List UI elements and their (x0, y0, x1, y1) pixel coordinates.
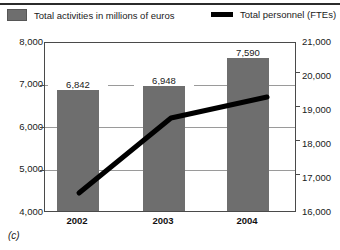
square-swatch-icon (7, 9, 27, 21)
chart-figure: Total activities in millions of euros To… (0, 0, 340, 250)
left-axis-tick-4000: 4,000 (3, 207, 43, 217)
top-divider-rule (0, 3, 340, 5)
x-axis-label-2003: 2003 (133, 215, 193, 226)
line-swatch-icon (211, 12, 233, 17)
right-axis-tick-17000: 17,000 (302, 173, 340, 183)
x-axis-label-2004: 2004 (217, 215, 277, 226)
right-axis-tick-16000: 16,000 (302, 207, 340, 217)
right-axis-tick-18000: 18,000 (302, 139, 340, 149)
legend-item-bars: Total activities in millions of euros (7, 9, 174, 21)
left-axis-tick-7000: 7,000 (3, 79, 43, 89)
plot-area: 6,842 6,948 7,590 (44, 42, 296, 212)
figure-caption: (c) (8, 230, 20, 241)
legend-item-line: Total personnel (FTEs) (211, 9, 336, 20)
right-axis-tick-19000: 19,000 (302, 105, 340, 115)
left-axis-tick-5000: 5,000 (3, 164, 43, 174)
chart-legend: Total activities in millions of euros To… (0, 8, 340, 25)
x-axis-label-2002: 2002 (47, 215, 107, 226)
right-axis-tick-20000: 20,000 (302, 71, 340, 81)
left-axis-tick-8000: 8,000 (3, 37, 43, 47)
legend-label-bars: Total activities in millions of euros (34, 10, 174, 21)
right-axis-tick-21000: 21,000 (302, 37, 340, 47)
legend-label-line: Total personnel (FTEs) (240, 9, 336, 20)
line-series-total-personnel (45, 43, 297, 213)
left-axis-tick-6000: 6,000 (3, 122, 43, 132)
